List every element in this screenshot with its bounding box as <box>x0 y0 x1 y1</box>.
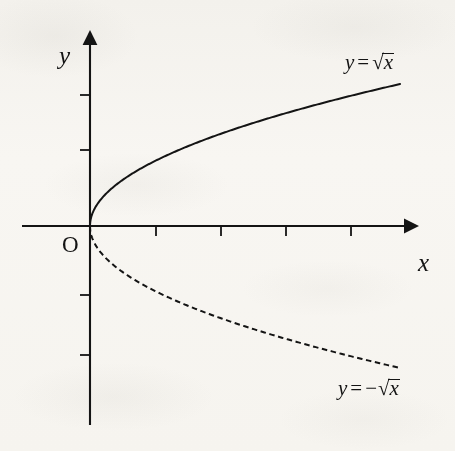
radical-group: √x <box>378 378 400 399</box>
curve-label-sqrt: y=√x <box>345 52 394 73</box>
curve-label-neg-sqrt-sign: − <box>365 376 378 400</box>
radical-overbar <box>388 379 400 380</box>
curve-label-negative-sqrt: y=−√x <box>338 378 400 399</box>
curve-label-sqrt-lhs: y <box>345 50 354 74</box>
curve-label-neg-sqrt-equals: = <box>347 376 365 400</box>
y-axis-label: y <box>59 43 70 68</box>
radical-group: √x <box>372 52 394 73</box>
curve-y-equals-negative-sqrt-x-path <box>90 226 400 368</box>
origin-label: O <box>62 233 79 256</box>
curve-label-sqrt-equals: = <box>354 50 372 74</box>
x-axis-ticks <box>156 226 351 236</box>
curve-label-neg-sqrt-lhs: y <box>338 376 347 400</box>
x-axis-arrowhead-icon <box>404 219 419 234</box>
x-axis-label: x <box>418 250 429 275</box>
math-figure-square-root-graph: y x O y=√x y=−√x <box>0 0 455 451</box>
curve-y-equals-sqrt-x-path <box>90 84 400 226</box>
radical-overbar <box>382 53 394 54</box>
y-axis-arrowhead-icon <box>83 30 98 45</box>
